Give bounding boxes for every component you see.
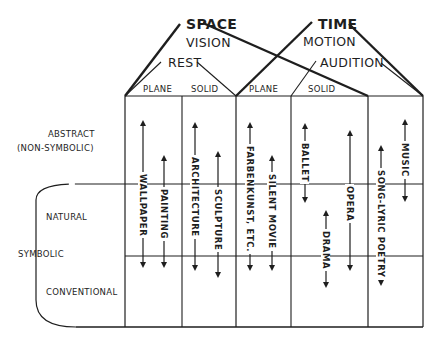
- column-header-time-plane: PLANE: [249, 84, 278, 94]
- row-label-abstract: ABSTRACT: [48, 129, 95, 139]
- art-form-music: MUSIC: [400, 141, 409, 179]
- art-form-painting: PAINTING: [159, 187, 168, 241]
- column-header-space-plane: PLANE: [143, 84, 172, 94]
- art-form-ballet: BALLET: [300, 141, 309, 184]
- art-form-sculpture: SCULPTURE: [213, 187, 222, 252]
- column-header-time-solid: SOLID: [308, 84, 335, 94]
- space-title: SPACE: [186, 16, 237, 32]
- vision-label: VISION: [186, 35, 231, 50]
- row-label-non-symbolic: (NON-SYMBOLIC): [17, 143, 94, 153]
- art-form-drama: DRAMA: [321, 229, 330, 271]
- row-label-natural: NATURAL: [46, 212, 87, 222]
- art-form-architecture: ARCHITECTURE: [190, 155, 199, 239]
- art-form-silent-movie: SILENT MOVIE: [267, 172, 276, 251]
- motion-label: MOTION: [303, 34, 356, 49]
- art-form-farbenkunst: FARBENKUNST, ETC.: [245, 144, 254, 254]
- audition-label: AUDITION: [320, 55, 384, 70]
- row-label-symbolic: SYMBOLIC: [18, 249, 64, 259]
- art-form-opera: OPERA: [345, 184, 354, 223]
- row-label-conventional: CONVENTIONAL: [46, 287, 117, 297]
- art-form-song-lyric-poetry: SONG-LYRIC POETRY: [376, 168, 385, 280]
- art-form-wallpaper: WALLPAPER: [138, 172, 147, 238]
- column-header-space-solid: SOLID: [191, 84, 218, 94]
- rest-label: REST: [168, 55, 201, 70]
- time-title: TIME: [318, 16, 357, 32]
